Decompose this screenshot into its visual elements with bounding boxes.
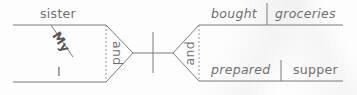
predicate-conjunction-label: and xyxy=(184,41,197,65)
object-word-groceries: groceries xyxy=(275,8,336,21)
verb-word-bought: bought xyxy=(211,8,257,21)
diagram-canvas: sister I My and and bought groceries pre… xyxy=(0,0,357,95)
object-word-supper: supper xyxy=(293,64,338,77)
subject-word-sister: sister xyxy=(40,8,76,21)
subject-word-i: I xyxy=(57,66,61,79)
subject-conjunction-label: and xyxy=(111,41,124,65)
verb-word-prepared: prepared xyxy=(211,64,271,77)
